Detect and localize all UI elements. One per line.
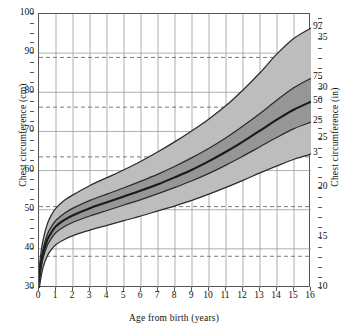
x-tick-5: 5 [114,290,132,300]
x-tick-11: 11 [216,290,234,300]
x-tick-7: 7 [148,290,166,300]
x-tick-13: 13 [250,290,268,300]
percentile-label-50: 50 [313,95,329,105]
plot-svg [39,14,311,288]
x-tick-12: 12 [233,290,251,300]
x-tick-9: 9 [182,290,200,300]
percentile-label-75: 75 [313,71,329,81]
x-tick-8: 8 [165,290,183,300]
x-tick-3: 3 [80,290,98,300]
x-tick-4: 4 [97,290,115,300]
x-tick-14: 14 [267,290,285,300]
percentile-label-25: 25 [313,115,329,125]
x-tick-15: 15 [284,290,302,300]
percentile-label-3: 3 [313,147,329,157]
x-tick-10: 10 [199,290,217,300]
x-tick-2: 2 [63,290,81,300]
percentile-label-97: 97 [313,21,329,31]
x-tick-6: 6 [131,290,149,300]
plot-area [38,13,310,287]
x-tick-16: 16 [301,290,319,300]
x-tick-0: 0 [29,290,47,300]
x-tick-1: 1 [46,290,64,300]
chest-circumference-growth-chart: Chest circumference (cm) Chest circumfer… [0,0,357,332]
